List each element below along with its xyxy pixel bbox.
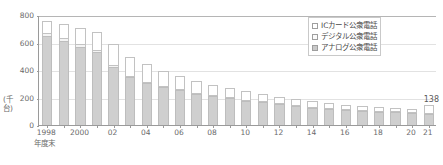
bar-segment-ic-card: [92, 32, 102, 50]
legend-item: アナログ公衆電話: [312, 42, 377, 53]
bar: [307, 101, 317, 125]
x-axis-tick-label: 21: [416, 129, 440, 137]
bar: [158, 71, 168, 125]
bar: [341, 105, 351, 125]
bar: [390, 108, 400, 125]
public-telephone-stacked-bar-chart: (千台) 0200400600800 199820000204060810121…: [0, 0, 443, 165]
bar: [208, 85, 218, 125]
y-axis-tick-label: 400: [8, 67, 34, 75]
x-axis-tick-label: 18: [366, 129, 390, 137]
bar-segment-ic-card: [158, 71, 168, 86]
x-axis-tick-label: 16: [333, 129, 357, 137]
bar-segment-analog: [357, 111, 367, 125]
bar: [142, 64, 152, 125]
bar: [407, 109, 417, 125]
bar-segment-ic-card: [125, 57, 135, 76]
bar-segment-analog: [390, 112, 400, 125]
bar-segment-analog: [291, 106, 301, 125]
bar-segment-analog: [424, 114, 434, 125]
bar-segment-analog: [59, 41, 69, 125]
x-axis-tick-mark: [230, 125, 231, 128]
bar-segment-analog: [407, 113, 417, 125]
bar-segment-analog: [324, 109, 334, 125]
x-axis-title: 年度末: [34, 140, 55, 148]
bar-segment-analog: [191, 94, 201, 125]
x-axis-tick-label: 02: [101, 129, 125, 137]
bar-segment-analog: [258, 102, 268, 125]
bar: [108, 44, 118, 125]
legend-item: ICカード公衆電話: [312, 20, 377, 31]
chart-legend: ICカード公衆電話 デジタル公衆電話 アナログ公衆電話: [308, 17, 381, 56]
bar-segment-ic-card: [59, 24, 69, 38]
bar: [357, 106, 367, 125]
bar-segment-analog: [125, 77, 135, 125]
bar-segment-ic-card: [175, 76, 185, 89]
bar-segment-ic-card: [208, 85, 218, 95]
bar: [125, 57, 135, 125]
legend-swatch-analog-icon: [312, 45, 318, 51]
bar-segment-ic-card: [75, 28, 85, 44]
bar-segment-ic-card: [191, 81, 201, 93]
x-axis-tick-mark: [163, 125, 164, 128]
x-axis-tick-mark: [362, 125, 363, 128]
x-axis-tick-mark: [396, 125, 397, 128]
bar-segment-ic-card: [42, 21, 52, 33]
y-axis-tick-mark: [37, 126, 40, 127]
bar-segment-ic-card: [424, 105, 434, 113]
bar: [191, 81, 201, 125]
bar-segment-ic-card: [241, 91, 251, 99]
bar-segment-analog: [75, 47, 85, 125]
bar: [324, 103, 334, 125]
bar-segment-analog: [108, 67, 118, 125]
x-axis-tick-mark: [97, 125, 98, 128]
x-axis-tick-mark: [64, 125, 65, 128]
bar-segment-analog: [307, 108, 317, 125]
x-axis-tick-mark: [130, 125, 131, 128]
legend-swatch-ic-icon: [312, 23, 318, 29]
bar-segment-ic-card: [225, 88, 235, 97]
x-axis-tick-label: 08: [200, 129, 224, 137]
legend-item: デジタル公衆電話: [312, 31, 377, 42]
bar: [258, 94, 268, 125]
y-axis-tick-label: 800: [8, 12, 34, 20]
bar-segment-ic-card: [258, 94, 268, 101]
bar: [374, 107, 384, 125]
legend-label: ICカード公衆電話: [321, 22, 377, 30]
y-axis-tick-label: 600: [8, 40, 34, 48]
x-axis-tick-mark: [263, 125, 264, 128]
x-axis-tick-label: 10: [233, 129, 257, 137]
legend-label: デジタル公衆電話: [321, 33, 377, 41]
legend-swatch-digital-icon: [312, 34, 318, 40]
x-axis-tick-label: 2000: [67, 129, 91, 137]
x-axis-tick-label: 1998: [34, 129, 58, 137]
x-axis-tick-mark: [329, 125, 330, 128]
x-axis-tick-mark: [296, 125, 297, 128]
bar: [75, 28, 85, 125]
bar-segment-analog: [241, 101, 251, 125]
x-axis-tick-label: 12: [266, 129, 290, 137]
bar: [225, 88, 235, 125]
bar-segment-ic-card: [108, 44, 118, 64]
bar-segment-analog: [92, 52, 102, 125]
bar: [274, 97, 284, 125]
x-axis-tick-label: 14: [300, 129, 324, 137]
end-value-label: 138: [424, 96, 439, 104]
x-axis-tick-label: 06: [167, 129, 191, 137]
legend-label: アナログ公衆電話: [321, 44, 377, 52]
bar: [42, 21, 52, 125]
bar-segment-ic-card: [142, 64, 152, 82]
bar: [92, 32, 102, 125]
bar: [241, 91, 251, 125]
x-axis-tick-mark: [197, 125, 198, 128]
bar-segment-analog: [142, 83, 152, 125]
bar-segment-analog: [175, 90, 185, 125]
bar-segment-analog: [225, 98, 235, 125]
bar: [424, 105, 434, 125]
bar-segment-analog: [374, 112, 384, 125]
bar-segment-analog: [208, 96, 218, 125]
bar-segment-analog: [42, 36, 52, 125]
bar-segment-analog: [158, 87, 168, 125]
bar-segment-analog: [274, 104, 284, 125]
y-axis-tick-label: 0: [8, 122, 34, 130]
y-axis-tick-label: 200: [8, 95, 34, 103]
